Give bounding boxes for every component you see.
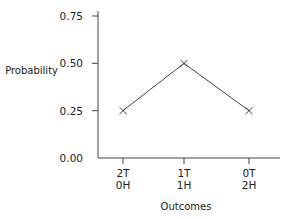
y-axis-title: Probability (5, 65, 58, 76)
y-ticks: 0.000.250.500.75 (60, 10, 98, 164)
y-tick-label: 0.50 (60, 57, 83, 69)
x-tick-label: 2T (116, 167, 130, 179)
x-marker-icon (246, 107, 253, 114)
chart: 0.000.250.500.75 2T0H1T1H0T2H Probabilit… (0, 0, 290, 219)
y-tick-label: 0.75 (60, 10, 83, 22)
x-tick-label: 1T (177, 167, 191, 179)
y-tick-label: 0.00 (60, 152, 83, 164)
x-tick-label: 0T (242, 167, 256, 179)
series-line (123, 63, 249, 110)
x-tick-label: 0H (116, 179, 131, 191)
x-tick-label: 2H (242, 179, 257, 191)
x-marker-icon (181, 60, 188, 67)
y-tick-label: 0.25 (60, 105, 83, 117)
x-ticks: 2T0H1T1H0T2H (116, 158, 257, 191)
series-markers (120, 60, 253, 114)
x-marker-icon (120, 107, 127, 114)
axes (98, 11, 280, 158)
x-tick-label: 1H (177, 179, 192, 191)
x-axis-title: Outcomes (161, 201, 212, 212)
